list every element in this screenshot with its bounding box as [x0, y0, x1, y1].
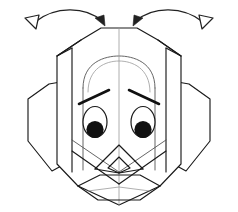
origami-diagram-root [0, 0, 238, 212]
right-eye-pupil [134, 121, 151, 138]
left-eye [83, 107, 107, 139]
left-eye-pupil [86, 121, 103, 138]
right-eye [131, 107, 155, 139]
origami-face-figure [0, 0, 238, 212]
